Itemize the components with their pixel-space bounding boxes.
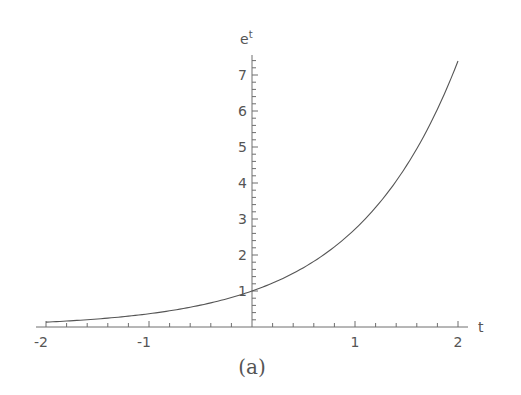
y-tick-label: 7 (238, 67, 247, 83)
x-tick-labels: -2-112 (34, 334, 462, 350)
y-tick-label: 6 (238, 103, 247, 119)
x-tick-label: -2 (34, 334, 48, 350)
x-tick-label: 1 (351, 334, 360, 350)
x-tick-label: 2 (454, 334, 463, 350)
y-axis-label: et (240, 29, 253, 47)
y-tick-label: 1 (238, 283, 247, 299)
y-axis-label-exponent: t (249, 29, 253, 40)
y-tick-label: 5 (238, 139, 247, 155)
y-tick-label: 4 (238, 175, 247, 191)
x-tick-label: -1 (137, 334, 151, 350)
figure-caption: (a) (238, 355, 266, 379)
y-tick-labels: 1234567 (238, 67, 247, 299)
exponential-plot: -2-112 1234567 t et (a) (0, 0, 521, 395)
y-axis-label-base: e (240, 31, 249, 47)
y-tick-label: 3 (238, 211, 247, 227)
x-axis-label: t (478, 319, 484, 335)
y-tick-label: 2 (238, 247, 247, 263)
